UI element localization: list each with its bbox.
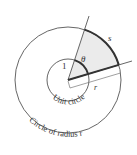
- label-unit-radius: 1: [62, 61, 67, 71]
- diagram-canvas: s θ 1 r Unit circle Circle of radius r: [0, 0, 137, 155]
- label-theta: θ: [81, 54, 86, 64]
- label-s: s: [108, 33, 112, 43]
- radius-dimension-tick-center: [68, 81, 70, 88]
- label-outer-circle: Circle of radius r: [27, 115, 83, 139]
- arc-length-diagram: s θ 1 r Unit circle Circle of radius r: [0, 0, 137, 155]
- label-unit-circle: Unit circle: [51, 91, 87, 106]
- label-r: r: [94, 83, 98, 92]
